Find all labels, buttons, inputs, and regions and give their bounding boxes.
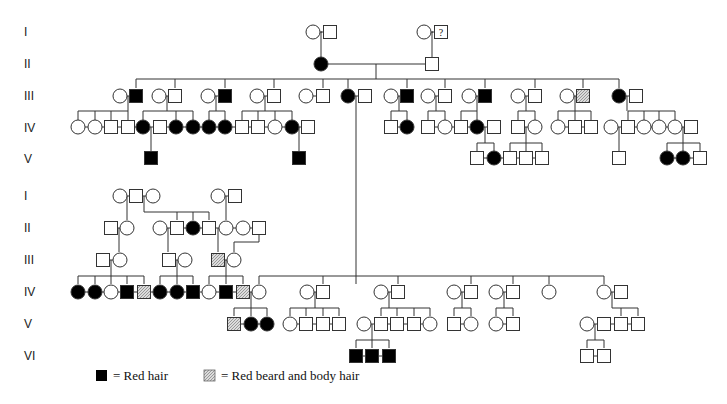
generation-label: I <box>24 25 27 39</box>
male-unaffected <box>598 350 611 363</box>
male-unaffected <box>392 286 405 299</box>
male-unaffected <box>426 58 439 71</box>
male-unaffected <box>685 121 698 134</box>
male-unaffected <box>300 318 313 331</box>
female-unaffected <box>597 285 611 299</box>
male-unaffected <box>536 152 549 165</box>
female-red-hair <box>612 89 626 103</box>
male-red-hair <box>366 350 379 363</box>
male-unaffected <box>507 318 520 331</box>
male-red-beard <box>212 254 225 267</box>
female-unaffected <box>88 120 102 134</box>
generation-label: II <box>24 57 31 71</box>
pedigree-figure: IIIIIIIVVIIIIIIIVVVI ? = Red hair = Red … <box>0 0 727 404</box>
female-unaffected <box>306 25 320 39</box>
male-unaffected <box>317 286 330 299</box>
male-unaffected <box>317 318 330 331</box>
male-unaffected <box>105 121 118 134</box>
legend-red-beard-symbol <box>204 370 215 381</box>
male-unaffected <box>615 286 628 299</box>
female-unaffected <box>152 89 166 103</box>
female-red-hair <box>244 317 258 331</box>
female-red-hair <box>660 151 674 165</box>
female-red-hair <box>285 120 299 134</box>
male-red-hair <box>121 286 134 299</box>
female-unaffected <box>120 221 134 235</box>
male-unaffected <box>252 121 265 134</box>
male-unaffected <box>171 222 184 235</box>
female-red-hair <box>153 285 167 299</box>
female-unaffected <box>71 120 85 134</box>
female-unaffected <box>560 89 574 103</box>
female-unaffected <box>201 89 215 103</box>
female-unaffected <box>178 253 192 267</box>
female-unaffected <box>202 285 216 299</box>
female-unaffected <box>268 120 282 134</box>
male-unaffected <box>471 152 484 165</box>
female-unaffected <box>511 89 525 103</box>
female-unaffected <box>489 285 503 299</box>
legend-red-hair-symbol <box>96 370 107 381</box>
female-unaffected <box>637 120 651 134</box>
male-unaffected <box>512 121 525 134</box>
male-red-hair <box>293 152 306 165</box>
male-unaffected <box>408 318 421 331</box>
male-unaffected <box>391 318 404 331</box>
female-unaffected <box>384 89 398 103</box>
female-unaffected <box>652 120 666 134</box>
male-unaffected <box>422 121 435 134</box>
female-unaffected <box>250 89 264 103</box>
male-unaffected <box>581 350 594 363</box>
male-unaffected <box>465 286 478 299</box>
male-red-hair <box>401 90 414 103</box>
male-unaffected <box>359 90 372 103</box>
male-unaffected <box>507 286 520 299</box>
female-unaffected <box>113 189 127 203</box>
female-red-hair <box>88 285 102 299</box>
female-unaffected <box>252 285 266 299</box>
female-red-hair <box>170 285 184 299</box>
male-red-hair <box>219 90 232 103</box>
female-unaffected <box>219 221 233 235</box>
female-unaffected <box>668 120 682 134</box>
female-unaffected <box>462 89 476 103</box>
male-unaffected <box>130 190 143 203</box>
male-red-hair <box>350 350 363 363</box>
male-unaffected <box>333 318 346 331</box>
legend: = Red hair = Red beard and body hair <box>96 368 360 383</box>
female-unaffected <box>374 285 388 299</box>
generation-label: I <box>24 189 27 203</box>
female-unaffected <box>551 120 565 134</box>
generation-label: V <box>24 317 32 331</box>
male-unaffected <box>253 222 266 235</box>
female-red-hair <box>218 120 232 134</box>
female-unaffected <box>421 89 435 103</box>
male-unaffected <box>229 190 242 203</box>
female-unaffected <box>580 317 594 331</box>
male-unaffected <box>169 90 182 103</box>
male-unaffected <box>630 90 643 103</box>
female-red-hair <box>136 120 150 134</box>
male-unaffected <box>268 90 281 103</box>
unknown-mark: ? <box>439 27 444 38</box>
male-red-hair <box>145 152 158 165</box>
female-red-hair <box>470 120 484 134</box>
female-unaffected <box>113 253 127 267</box>
generation-label: II <box>24 221 31 235</box>
female-unaffected <box>153 221 167 235</box>
male-unaffected <box>504 152 517 165</box>
male-red-beard <box>138 286 151 299</box>
male-red-beard <box>577 90 590 103</box>
female-unaffected <box>489 317 503 331</box>
female-red-hair <box>186 120 200 134</box>
male-unaffected <box>385 121 398 134</box>
connector-lines <box>78 32 700 356</box>
female-unaffected <box>236 221 250 235</box>
male-unaffected <box>302 121 315 134</box>
female-unaffected <box>464 317 478 331</box>
male-unaffected <box>613 152 626 165</box>
female-unaffected <box>447 285 461 299</box>
male-red-hair <box>383 350 396 363</box>
generation-label: IV <box>24 285 35 299</box>
female-unaffected <box>211 189 225 203</box>
